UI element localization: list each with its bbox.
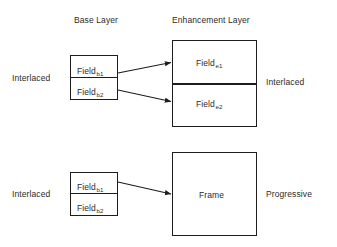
header-enhancement-layer: Enhancement Layer	[172, 16, 250, 25]
top-row-left-label: Interlaced	[12, 74, 50, 83]
arrow-base-b2-to-enhancement-e2	[118, 90, 171, 102]
frame-label: Frame	[199, 190, 224, 200]
top-base-field-b2-label: Fieldb2	[77, 87, 103, 97]
top-enhancement-field-e1-label: Fielde1	[196, 58, 222, 68]
arrow-layer	[0, 0, 337, 247]
header-base-layer: Base Layer	[74, 16, 118, 25]
top-enhancement-layer-divider	[172, 83, 257, 84]
top-enhancement-field-e2-label: Fielde2	[196, 99, 222, 109]
bottom-base-layer-divider	[70, 193, 118, 194]
arrow-base-b1-to-enhancement-e1	[118, 63, 171, 74]
bottom-row-left-label: Interlaced	[12, 190, 50, 199]
bottom-base-field-b2-label: Fieldb2	[77, 203, 103, 213]
bottom-row-right-label: Progressive	[266, 190, 312, 199]
arrow-base-to-frame	[118, 182, 171, 194]
top-row-right-label: Interlaced	[266, 78, 304, 87]
bottom-base-field-b1-label: Fieldb1	[77, 182, 103, 192]
top-enhancement-layer-box	[172, 40, 257, 127]
diagram-canvas: Base Layer Enhancement Layer Interlaced …	[0, 0, 337, 247]
top-base-field-b1-label: Fieldb1	[77, 66, 103, 76]
top-base-layer-divider	[70, 77, 118, 78]
